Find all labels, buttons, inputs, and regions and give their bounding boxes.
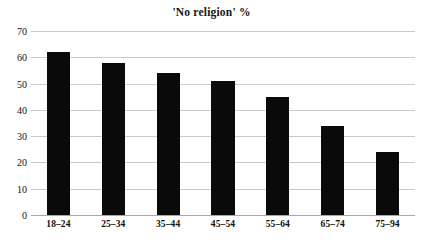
bar xyxy=(157,73,180,215)
y-tick-label: 30 xyxy=(0,131,27,142)
y-tick-label: 60 xyxy=(0,52,27,63)
y-tick-label: 40 xyxy=(0,104,27,115)
bar-chart: 'No religion' % 010203040506070 18–2425–… xyxy=(0,0,423,242)
bar xyxy=(211,81,234,215)
x-tick-label: 75–94 xyxy=(360,219,415,229)
bars-container xyxy=(31,31,415,215)
y-tick-label: 0 xyxy=(0,210,27,221)
bar xyxy=(321,126,344,215)
bar xyxy=(266,97,289,215)
bar xyxy=(47,52,70,215)
gridline-0 xyxy=(31,215,415,216)
x-tick-label: 25–34 xyxy=(86,219,141,229)
x-tick-label: 65–74 xyxy=(305,219,360,229)
y-tick-label: 70 xyxy=(0,26,27,37)
chart-title: 'No religion' % xyxy=(0,6,423,18)
y-tick-label: 10 xyxy=(0,183,27,194)
x-tick-label: 35–44 xyxy=(141,219,196,229)
x-axis-tick-labels: 18–2425–3435–4445–5455–6465–7475–94 xyxy=(31,217,415,237)
y-tick-label: 50 xyxy=(0,78,27,89)
y-tick-label: 20 xyxy=(0,157,27,168)
x-tick-label: 18–24 xyxy=(31,219,86,229)
bar xyxy=(376,152,399,215)
x-tick-label: 45–54 xyxy=(196,219,251,229)
bar xyxy=(102,63,125,215)
x-tick-label: 55–64 xyxy=(250,219,305,229)
